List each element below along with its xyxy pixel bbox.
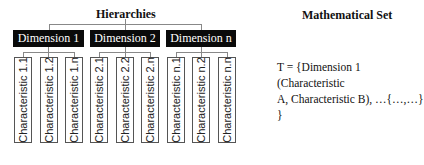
characteristic-label: Characteristic 1.1 xyxy=(17,57,29,143)
characteristic-label: Characteristic 1.2 xyxy=(43,57,55,143)
dimension-2-box: Dimension 2 xyxy=(90,30,160,47)
characteristic-1-2-box: Characteristic 1.2 xyxy=(40,57,58,143)
characteristic-1-n-box: Characteristic 1.n xyxy=(65,57,83,143)
characteristic-label: Characteristic 1.n xyxy=(68,57,80,143)
top-connector-drop-2 xyxy=(125,19,126,30)
characteristic-2-2-box: Characteristic 2.2 xyxy=(116,57,134,143)
characteristic-label: Characteristic n.2 xyxy=(195,57,207,143)
characteristic-label: Characteristic 2.n xyxy=(144,57,156,143)
characteristic-n-2-box: Characteristic n.2 xyxy=(192,57,210,143)
set-line-2: A, Characteristic B), …{…,…} xyxy=(277,91,424,107)
characteristic-n-1-box: Characteristic n.1 xyxy=(167,57,185,143)
characteristic-2-n-box: Characteristic 2.n xyxy=(141,57,159,143)
characteristic-2-1-box: Characteristic 2.1 xyxy=(90,57,108,143)
characteristic-label: Characteristic n.1 xyxy=(170,57,182,143)
mathematical-set-expression: T = {Dimension 1 (Characteristic A, Char… xyxy=(277,59,424,123)
set-line-3: } xyxy=(277,107,424,123)
dimension-n-box: Dimension n xyxy=(166,30,236,47)
characteristic-n-n-box: Characteristic n.n xyxy=(218,57,236,143)
characteristic-1-1-box: Characteristic 1.1 xyxy=(14,57,32,143)
dimension-1-box: Dimension 1 xyxy=(13,30,84,47)
characteristic-label: Characteristic 2.2 xyxy=(119,57,131,143)
mathematical-set-title: Mathematical Set xyxy=(302,8,392,23)
set-line-1: T = {Dimension 1 (Characteristic xyxy=(277,59,424,91)
characteristic-label: Characteristic n.n xyxy=(221,57,233,143)
characteristic-label: Characteristic 2.1 xyxy=(93,57,105,143)
